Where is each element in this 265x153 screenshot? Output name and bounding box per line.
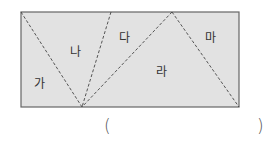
region-label-na: 나 bbox=[70, 45, 81, 59]
region-label-ma: 마 bbox=[205, 31, 216, 45]
region-label-ra: 라 bbox=[156, 65, 167, 79]
triangle-rectangle-diagram: 가 나 다 라 마 bbox=[0, 0, 265, 153]
outer-rectangle bbox=[21, 12, 239, 107]
answer-close-paren: ) bbox=[257, 116, 264, 136]
region-label-da: 다 bbox=[119, 31, 130, 45]
answer-open-paren: ( bbox=[104, 116, 111, 136]
region-label-ga: 가 bbox=[34, 77, 45, 91]
